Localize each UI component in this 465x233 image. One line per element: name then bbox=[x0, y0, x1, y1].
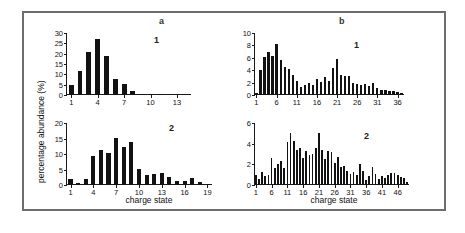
x-tick-mark bbox=[272, 185, 273, 188]
bar bbox=[348, 76, 350, 95]
bar bbox=[350, 174, 352, 185]
x-axis-title-left: charge state bbox=[84, 195, 214, 205]
bar bbox=[198, 182, 202, 185]
bar bbox=[104, 56, 109, 95]
bar bbox=[271, 158, 273, 185]
bar bbox=[376, 88, 378, 95]
bar bbox=[113, 79, 118, 95]
bar bbox=[364, 84, 366, 95]
bar bbox=[277, 164, 279, 185]
x-tick-mark bbox=[303, 185, 304, 188]
bar bbox=[293, 141, 295, 185]
x-tick-mark bbox=[287, 185, 288, 188]
bar bbox=[316, 79, 318, 95]
y-tick-mark bbox=[64, 170, 67, 171]
bar bbox=[318, 133, 320, 185]
bar bbox=[305, 151, 307, 185]
bar bbox=[400, 177, 402, 185]
bar bbox=[309, 155, 311, 185]
bar bbox=[76, 183, 80, 185]
bar bbox=[274, 168, 276, 185]
x-tick-mark bbox=[116, 185, 117, 188]
bar bbox=[271, 56, 273, 95]
bar bbox=[365, 180, 367, 185]
bar bbox=[381, 176, 383, 185]
bar bbox=[378, 179, 380, 185]
y-tick-mark bbox=[252, 83, 255, 84]
bar bbox=[287, 142, 289, 185]
bar bbox=[368, 86, 370, 95]
bar bbox=[406, 182, 408, 185]
bar bbox=[99, 150, 103, 185]
x-tick-mark bbox=[151, 95, 152, 98]
bar bbox=[372, 83, 374, 95]
y-tick-mark bbox=[64, 95, 67, 96]
bar bbox=[148, 94, 153, 95]
bar bbox=[312, 85, 314, 95]
bar bbox=[292, 75, 294, 95]
bar bbox=[302, 158, 304, 185]
bar bbox=[353, 172, 355, 185]
bar bbox=[268, 175, 270, 185]
y-axis-line bbox=[254, 33, 255, 95]
x-tick-mark bbox=[398, 185, 399, 188]
bar bbox=[288, 69, 290, 95]
x-tick-mark bbox=[71, 95, 72, 98]
x-tick-mark bbox=[177, 95, 178, 98]
x-tick-mark bbox=[357, 95, 358, 98]
x-tick-mark bbox=[139, 185, 140, 188]
bar bbox=[160, 173, 164, 185]
bar bbox=[334, 163, 336, 185]
bar bbox=[114, 138, 118, 185]
bar bbox=[396, 92, 398, 95]
bar bbox=[372, 167, 374, 185]
y-tick-mark bbox=[64, 139, 67, 140]
y-tick-mark bbox=[252, 45, 255, 46]
y-tick-mark bbox=[64, 154, 67, 155]
bar bbox=[362, 171, 364, 185]
bar bbox=[394, 173, 396, 185]
bar bbox=[145, 175, 149, 185]
y-tick-mark bbox=[252, 33, 255, 34]
bar bbox=[205, 184, 209, 185]
y-tick-mark bbox=[64, 33, 67, 34]
bar bbox=[344, 76, 346, 95]
bar bbox=[299, 148, 301, 185]
bar bbox=[122, 147, 126, 185]
bar bbox=[356, 84, 358, 95]
bar bbox=[106, 153, 110, 185]
x-tick-mark bbox=[366, 185, 367, 188]
chart-a2: 0510152014710131619 bbox=[66, 123, 212, 185]
bar bbox=[175, 181, 179, 185]
bar bbox=[300, 87, 302, 95]
bar bbox=[264, 176, 266, 185]
x-tick-mark bbox=[277, 95, 278, 98]
figure-frame: a b percentage abundance (%) charge stat… bbox=[22, 11, 446, 211]
x-tick-mark bbox=[98, 95, 99, 98]
x-tick-mark bbox=[297, 95, 298, 98]
bar bbox=[315, 148, 317, 185]
bar bbox=[320, 82, 322, 95]
bar bbox=[387, 175, 389, 185]
y-tick-mark bbox=[64, 43, 67, 44]
y-tick-mark bbox=[252, 70, 255, 71]
bar bbox=[69, 85, 74, 95]
bar bbox=[346, 171, 348, 185]
bar bbox=[68, 179, 72, 185]
y-tick-mark bbox=[64, 64, 67, 65]
bar bbox=[336, 59, 338, 95]
y-tick-mark bbox=[64, 85, 67, 86]
y-axis-title: percentage abundance (%) bbox=[36, 80, 46, 183]
chart-b1: 024681016111621263136 bbox=[254, 33, 404, 95]
bar bbox=[78, 71, 83, 95]
y-tick-mark bbox=[64, 74, 67, 75]
bar bbox=[328, 81, 330, 95]
bar bbox=[390, 173, 392, 185]
x-tick-mark bbox=[377, 95, 378, 98]
bar bbox=[380, 90, 382, 95]
bar bbox=[95, 39, 100, 95]
x-tick-mark bbox=[124, 95, 125, 98]
bar bbox=[327, 151, 329, 185]
bar bbox=[139, 94, 144, 95]
bar bbox=[340, 75, 342, 95]
